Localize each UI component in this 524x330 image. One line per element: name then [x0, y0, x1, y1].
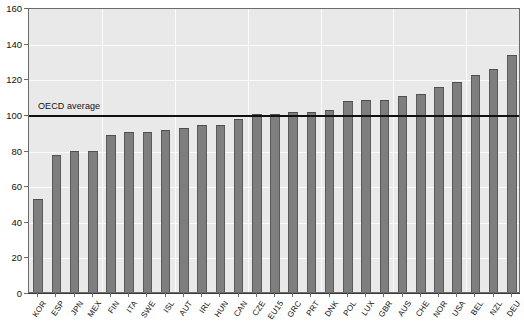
y-tick-label: 80 — [11, 145, 22, 156]
x-tick-mark — [365, 293, 366, 297]
y-tick-label: 100 — [6, 109, 22, 120]
bar — [179, 128, 188, 292]
x-tick-mark — [474, 293, 475, 297]
bar — [106, 135, 115, 292]
x-tick-label: NOR — [431, 299, 449, 319]
bar — [434, 87, 443, 292]
x-tick-label: PRT — [305, 299, 322, 318]
x-tick-mark — [274, 293, 275, 297]
bar — [398, 96, 407, 292]
x-tick-label: FIN — [106, 299, 121, 315]
bar — [288, 112, 297, 292]
bar — [234, 119, 243, 292]
x-tick-mark — [511, 293, 512, 297]
bar — [452, 82, 461, 292]
bar — [197, 125, 206, 292]
y-tick-label: 20 — [11, 252, 22, 263]
bar — [471, 75, 480, 292]
x-tick-mark — [183, 293, 184, 297]
x-tick-label: SWE — [140, 299, 158, 320]
x-tick-label: IRL — [198, 299, 213, 315]
bar — [124, 132, 133, 292]
bar — [33, 199, 42, 292]
x-tick-mark — [219, 293, 220, 297]
x-tick-mark — [110, 293, 111, 297]
y-axis: 160140120100806040200 — [0, 0, 28, 301]
x-tick-label: ITA — [125, 299, 140, 314]
x-tick-mark — [55, 293, 56, 297]
x-tick-mark — [256, 293, 257, 297]
y-tick-label: 120 — [6, 74, 22, 85]
bar — [489, 69, 498, 292]
x-tick-label: GRC — [286, 299, 304, 319]
x-tick-label: AUT — [177, 299, 194, 318]
bar — [380, 100, 389, 292]
x-tick-mark — [383, 293, 384, 297]
x-tick-mark — [201, 293, 202, 297]
x-tick-label: DEU — [505, 299, 522, 318]
x-tick-mark — [74, 293, 75, 297]
x-tick-mark — [128, 293, 129, 297]
x-tick-label: POL — [341, 299, 358, 318]
bar-chart: 160140120100806040200 OECD average KORES… — [0, 0, 524, 330]
x-tick-label: GBR — [377, 299, 395, 319]
x-tick-mark — [92, 293, 93, 297]
oecd-average-label: OECD average — [38, 101, 100, 111]
x-tick-label: LUX — [360, 299, 377, 317]
bar — [143, 132, 152, 292]
bars-layer — [29, 9, 519, 292]
x-tick-label: AUS — [396, 299, 413, 318]
bar — [507, 55, 516, 292]
y-tick-label: 160 — [6, 3, 22, 14]
bar — [416, 94, 425, 292]
x-tick-label: HUN — [213, 299, 231, 319]
x-tick-mark — [292, 293, 293, 297]
bar — [70, 151, 79, 292]
x-tick-mark — [347, 293, 348, 297]
bar — [325, 110, 334, 292]
x-tick-mark — [329, 293, 330, 297]
x-tick-label: ISL — [161, 299, 176, 314]
bar — [307, 112, 316, 292]
y-tick-label: 60 — [11, 181, 22, 192]
x-tick-label: MEX — [85, 299, 103, 319]
x-tick-label: USA — [450, 299, 467, 318]
x-tick-label: JPN — [69, 299, 85, 317]
oecd-average-line — [29, 115, 519, 117]
x-tick-mark — [438, 293, 439, 297]
x-tick-label: ESP — [50, 299, 67, 318]
bar — [161, 130, 170, 292]
x-tick-label: EU15 — [266, 299, 285, 321]
bar — [88, 151, 97, 292]
bar — [270, 114, 279, 292]
x-tick-label: NZL — [488, 299, 504, 317]
bar — [52, 155, 61, 292]
x-tick-label: CAN — [232, 299, 249, 318]
x-tick-mark — [420, 293, 421, 297]
x-tick-mark — [493, 293, 494, 297]
y-tick-label: 140 — [6, 38, 22, 49]
bar — [343, 101, 352, 292]
x-tick-mark — [37, 293, 38, 297]
x-tick-label: DNK — [323, 299, 340, 318]
plot-area — [28, 8, 520, 293]
x-tick-label: BEL — [469, 299, 485, 317]
bar — [216, 125, 225, 292]
y-tick-label: 40 — [11, 216, 22, 227]
x-tick-label: CZE — [250, 299, 267, 318]
x-tick-label: KOR — [31, 299, 49, 319]
x-tick-mark — [165, 293, 166, 297]
x-tick-mark — [456, 293, 457, 297]
x-axis-labels: KORESPJPNMEXFINITASWEISLAUTIRLHUNCANCZEE… — [0, 293, 524, 330]
bar — [361, 100, 370, 292]
bar — [252, 114, 261, 292]
x-tick-mark — [238, 293, 239, 297]
x-tick-mark — [402, 293, 403, 297]
x-tick-label: CHE — [414, 299, 431, 318]
x-tick-mark — [146, 293, 147, 297]
x-tick-mark — [310, 293, 311, 297]
